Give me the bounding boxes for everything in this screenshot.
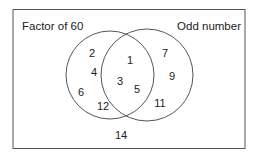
number-2: 2 [89,47,95,59]
odd-number-circle [101,29,193,121]
factor-of-60-circle [66,31,154,119]
number-3: 3 [117,75,123,87]
number-6: 6 [78,86,84,98]
number-7: 7 [162,47,168,59]
venn-diagram: Factor of 60 Odd number 2 4 6 12 1 3 5 7… [0,0,258,158]
label-factor-of-60: Factor of 60 [22,20,83,32]
number-9: 9 [169,70,175,82]
number-4: 4 [91,66,97,78]
number-14: 14 [115,129,127,141]
number-5: 5 [134,83,140,95]
label-odd-number: Odd number [177,20,241,32]
number-12: 12 [97,100,109,112]
number-11: 11 [154,97,165,109]
number-1: 1 [127,54,133,66]
